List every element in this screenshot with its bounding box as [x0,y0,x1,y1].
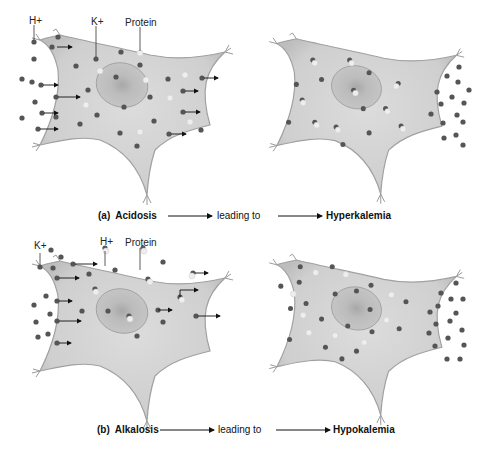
label-ion2: K+ [91,16,104,27]
cell-b-right [269,254,464,425]
caption-b-result: Hypokalemia [333,424,395,435]
caption-a-connector: leading to [217,210,261,221]
cell-a-left: H+ K+ Protein [19,15,233,205]
svg-text:(a)Acidosis: (a)Acidosis [98,210,157,221]
caption-a-result: Hyperkalemia [326,210,391,221]
label-ion1: K+ [34,240,47,251]
svg-text:(b)Alkalosis: (b)Alkalosis [97,424,159,435]
label-ion2: H+ [100,236,113,247]
label-ion1: H+ [29,15,42,26]
panel-b: K+ H+ Protein [31,236,466,435]
diagram-canvas: H+ K+ Protein [0,0,486,452]
caption-b-connector: leading to [218,424,262,435]
label-protein: Protein [125,17,157,28]
cell-a-right [269,33,464,204]
caption-a: (a)Acidosis leading to Hyperkalemia [98,210,391,221]
cell-b-left: K+ H+ Protein [31,236,233,431]
panel-a: H+ K+ Protein [19,15,471,221]
label-protein: Protein [125,237,157,248]
caption-b: (b)Alkalosis leading to Hypokalemia [97,424,395,435]
